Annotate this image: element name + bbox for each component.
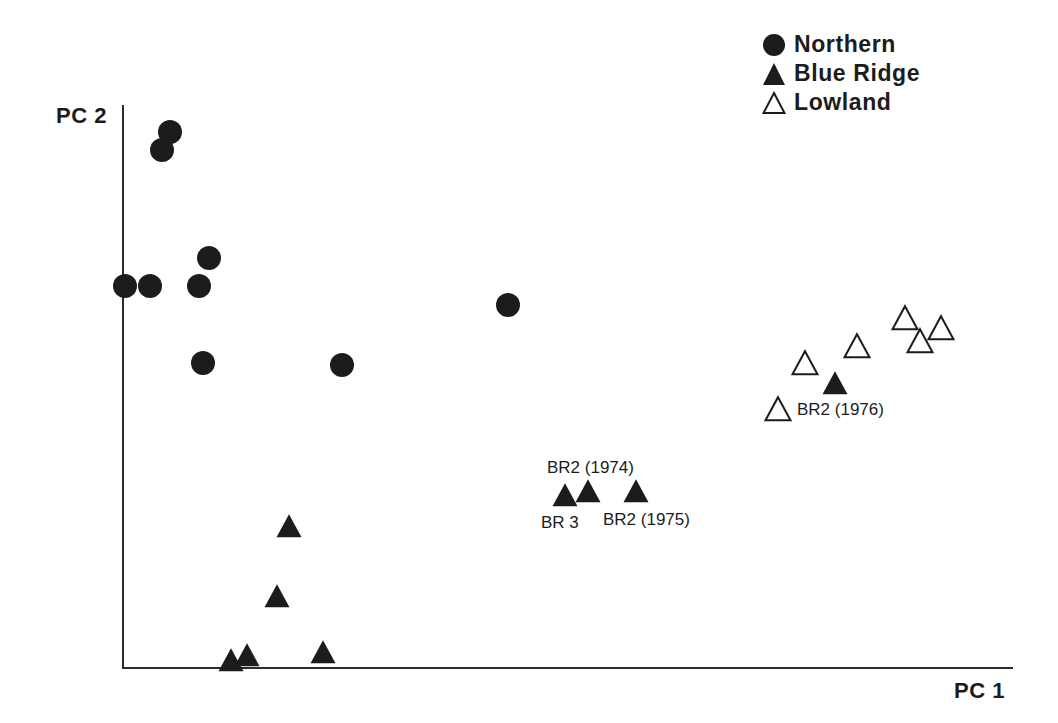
lowland-point: [766, 397, 791, 420]
data-points: [113, 120, 954, 671]
northern-point: [138, 274, 162, 298]
legend-label: Northern: [794, 31, 896, 58]
legend-label: Blue Ridge: [794, 60, 920, 87]
blue-ridge-point: [823, 371, 848, 394]
legend-item-lowland: Lowland: [762, 88, 920, 117]
annotation-br2-1976: BR2 (1976): [797, 400, 884, 420]
lowland-point: [793, 351, 818, 374]
blue-ridge-point: [553, 483, 578, 506]
northern-point: [187, 274, 211, 298]
northern-point: [197, 246, 221, 270]
x-axis-label: PC 1: [954, 678, 1005, 704]
legend-label: Lowland: [794, 89, 891, 116]
blue-ridge-point: [311, 640, 336, 663]
northern-point: [330, 353, 354, 377]
y-axis-label: PC 2: [56, 103, 107, 129]
annotation-br3: BR 3: [541, 513, 579, 533]
lowland-point: [845, 334, 870, 357]
annotation-br2-1974: BR2 (1974): [547, 458, 634, 478]
legend-item-northern: Northern: [762, 30, 920, 59]
blue-ridge-point: [277, 514, 302, 537]
lowland-point: [893, 306, 918, 329]
blue-ridge-point: [265, 584, 290, 607]
filled-triangle-icon: [762, 62, 786, 86]
northern-point: [496, 293, 520, 317]
filled-circle-icon: [762, 33, 786, 57]
northern-point: [113, 274, 137, 298]
legend-item-blue-ridge: Blue Ridge: [762, 59, 920, 88]
open-triangle-icon: [762, 91, 786, 115]
lowland-point: [929, 316, 954, 339]
blue-ridge-point: [576, 479, 601, 502]
blue-ridge-point: [235, 643, 260, 666]
northern-point: [150, 138, 174, 162]
blue-ridge-point: [624, 479, 649, 502]
annotation-br2-1975: BR2 (1975): [603, 510, 690, 530]
northern-point: [191, 351, 215, 375]
legend: Northern Blue Ridge Lowland: [762, 30, 920, 117]
lowland-point: [908, 329, 933, 352]
